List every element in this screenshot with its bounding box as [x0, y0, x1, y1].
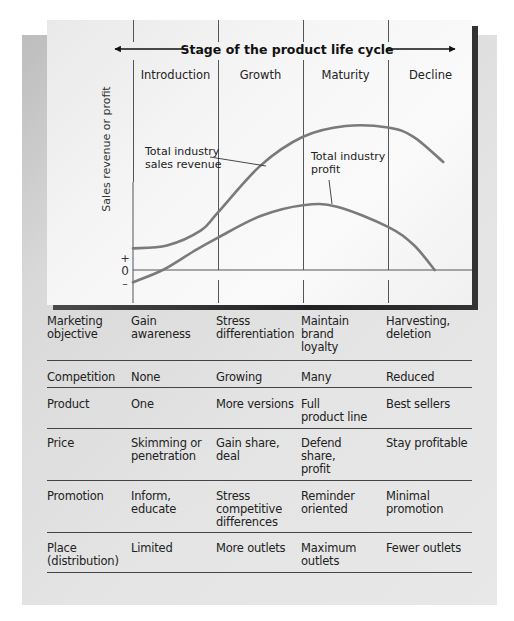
table-cell: Many	[301, 371, 331, 384]
sales-revenue-annotation-text: sales revenue	[145, 158, 222, 171]
table-cell: Stay profitable	[386, 437, 468, 450]
chart-title: Stage of the product life cycle	[180, 42, 393, 57]
cell-line: One	[131, 398, 154, 411]
cell-line: Growing	[216, 371, 262, 384]
cell-line: outlets	[301, 555, 356, 568]
profit-annotation-leader-line	[329, 180, 332, 204]
table-cell: Fewer outlets	[386, 542, 461, 555]
table-cell: Maximumoutlets	[301, 542, 356, 568]
row-divider	[47, 360, 472, 361]
table-cell: Fullproduct line	[301, 398, 367, 424]
cell-line: (distribution)	[47, 555, 119, 568]
cell-line: Limited	[131, 542, 172, 555]
cell-line: Product	[47, 398, 89, 411]
row-label: Price	[47, 437, 74, 450]
cell-line: Reduced	[386, 371, 434, 384]
cell-line: objective	[47, 328, 103, 341]
row-divider	[47, 532, 472, 533]
cell-line: profit	[301, 463, 341, 476]
stage-label: Growth	[240, 68, 282, 82]
cell-line: educate	[131, 503, 176, 516]
cell-line: None	[131, 371, 160, 384]
row-divider	[47, 387, 472, 388]
table-cell: Gainawareness	[131, 315, 191, 341]
table-cell: Maintainbrandloyalty	[301, 315, 349, 354]
cell-line: differentiation	[216, 328, 294, 341]
table-cell: Stressdifferentiation	[216, 315, 294, 341]
stage-labels: IntroductionGrowthMaturityDecline	[141, 68, 452, 82]
cell-line: loyalty	[301, 341, 349, 354]
table-cell: Defendshare,profit	[301, 437, 341, 476]
cell-line: More versions	[216, 398, 294, 411]
table-cell: One	[131, 398, 154, 411]
y-tick-labels: +0–	[120, 252, 129, 290]
cell-line: Promotion	[47, 490, 104, 503]
row-label: Marketingobjective	[47, 315, 103, 341]
annotations: Total industrysales revenueTotal industr…	[144, 145, 386, 204]
sales-revenue-annotation-text: Total industry	[144, 145, 220, 158]
stage-label: Introduction	[141, 68, 211, 82]
table-cell: None	[131, 371, 160, 384]
cell-line: awareness	[131, 328, 191, 341]
table-cell: Stresscompetitivedifferences	[216, 490, 282, 529]
cell-line: differences	[216, 516, 282, 529]
table-cell: Gain share,deal	[216, 437, 279, 463]
y-tick-label: 0	[121, 264, 129, 278]
table-cell: Harvesting,deletion	[386, 315, 450, 341]
y-axis-label: Sales revenue or profit	[100, 86, 113, 212]
table-cell: Reminderoriented	[301, 490, 355, 516]
y-tick-label: –	[122, 277, 128, 290]
cell-line: product line	[301, 411, 367, 424]
row-label: Place(distribution)	[47, 542, 119, 568]
row-label: Competition	[47, 371, 115, 384]
cell-line: Many	[301, 371, 331, 384]
cell-line: Stay profitable	[386, 437, 468, 450]
table-cell: Reduced	[386, 371, 434, 384]
sales-revenue-curve	[133, 125, 443, 248]
cell-line: Fewer outlets	[386, 542, 461, 555]
row-label: Product	[47, 398, 89, 411]
cell-line: penetration	[131, 450, 202, 463]
row-label: Promotion	[47, 490, 104, 503]
table-cell: Minimalpromotion	[386, 490, 443, 516]
row-divider	[47, 480, 472, 481]
stage-label: Decline	[409, 68, 452, 82]
profit-annotation-text: profit	[311, 163, 341, 176]
cell-line: Price	[47, 437, 74, 450]
cell-line: deletion	[386, 328, 450, 341]
table-cell: More outlets	[216, 542, 285, 555]
table-cell: Inform,educate	[131, 490, 176, 516]
cell-line: Best sellers	[386, 398, 450, 411]
row-divider	[47, 572, 472, 573]
table-cell: Best sellers	[386, 398, 450, 411]
table-cell: Limited	[131, 542, 172, 555]
row-divider	[47, 428, 472, 429]
cell-line: oriented	[301, 503, 355, 516]
table-cell: Growing	[216, 371, 262, 384]
stage-label: Maturity	[321, 68, 369, 82]
table-cell: More versions	[216, 398, 294, 411]
cell-line: promotion	[386, 503, 443, 516]
profit-annotation-text: Total industry	[310, 150, 386, 163]
table-cell: Skimming orpenetration	[131, 437, 202, 463]
cell-line: deal	[216, 450, 279, 463]
cell-line: More outlets	[216, 542, 285, 555]
cell-line: Competition	[47, 371, 115, 384]
